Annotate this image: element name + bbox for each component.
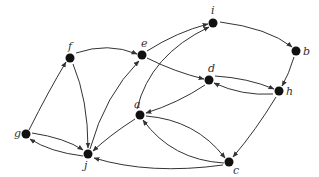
edge-g-to-f (29, 62, 66, 130)
node-d (205, 76, 214, 85)
node-label-a: a (134, 98, 141, 111)
directed-graph: feibdhagjc (0, 0, 319, 177)
node-a (136, 111, 145, 120)
node-label-j: j (81, 159, 88, 172)
node-g (22, 130, 31, 139)
node-b (292, 47, 301, 56)
node-label-b: b (303, 45, 310, 58)
edge-h-to-c (233, 97, 276, 157)
edge-f-to-e (76, 48, 137, 54)
edge-j-to-g (30, 139, 83, 156)
node-f (66, 54, 75, 63)
edge-c-to-j (94, 158, 223, 169)
edge-f-to-j (73, 64, 88, 148)
node-label-g: g (14, 127, 21, 140)
node-label-c: c (233, 164, 239, 177)
edge-c-to-a (143, 120, 224, 163)
node-label-i: i (211, 4, 215, 17)
edge-d-to-a (146, 85, 205, 113)
edge-j-to-e (90, 61, 139, 149)
edge-a-to-i (137, 27, 209, 109)
node-i (209, 19, 218, 28)
edge-b-to-h (282, 57, 294, 86)
node-h (275, 87, 284, 96)
node-label-h: h (286, 85, 293, 98)
edge-h-to-d (214, 83, 273, 94)
node-label-f: f (67, 40, 74, 53)
edge-g-to-j (32, 133, 83, 150)
node-label-e: e (141, 37, 148, 50)
node-label-d: d (208, 62, 215, 75)
node-j (84, 150, 93, 159)
node-e (138, 51, 147, 60)
edge-a-to-j (93, 119, 135, 151)
edge-i-to-b (220, 22, 292, 47)
